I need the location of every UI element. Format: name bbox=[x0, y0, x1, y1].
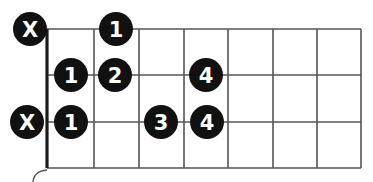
marker-label: 4 bbox=[199, 64, 214, 88]
muted-string-marker: X bbox=[10, 105, 44, 139]
bracket-curve bbox=[33, 170, 47, 182]
finger-marker: 1 bbox=[54, 58, 88, 92]
finger-markers: X1124X134 bbox=[10, 12, 224, 139]
marker-label: 4 bbox=[200, 111, 215, 135]
finger-marker: 1 bbox=[54, 105, 88, 139]
grid-lines bbox=[47, 29, 361, 168]
marker-label: 1 bbox=[109, 18, 124, 42]
marker-label: 2 bbox=[108, 64, 123, 88]
fretboard-grid: X1124X134 bbox=[0, 0, 373, 182]
finger-marker: 3 bbox=[144, 105, 178, 139]
marker-label: 1 bbox=[64, 64, 79, 88]
marker-label: X bbox=[22, 18, 38, 42]
marker-label: 1 bbox=[64, 111, 79, 135]
bottom-bracket bbox=[33, 170, 47, 182]
chord-diagram: X1124X134 bbox=[0, 0, 373, 182]
finger-marker: 4 bbox=[189, 58, 223, 92]
finger-marker: 4 bbox=[190, 105, 224, 139]
muted-string-marker: X bbox=[13, 12, 47, 46]
finger-marker: 2 bbox=[98, 58, 132, 92]
marker-label: X bbox=[19, 111, 35, 135]
marker-label: 3 bbox=[154, 111, 169, 135]
finger-marker: 1 bbox=[99, 12, 133, 46]
